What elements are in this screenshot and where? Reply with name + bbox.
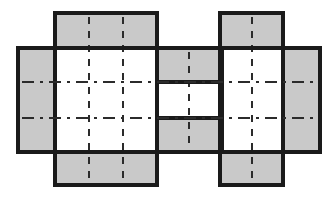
bottom-left-flap xyxy=(55,152,157,185)
bottom-right-flap xyxy=(220,152,283,185)
dieline-svg xyxy=(0,0,336,198)
top-left-flap xyxy=(55,13,157,48)
left-side-flap xyxy=(18,48,55,152)
body-left-panel xyxy=(55,48,157,152)
dieline-figure xyxy=(0,0,336,198)
right-side-flap xyxy=(283,48,320,152)
